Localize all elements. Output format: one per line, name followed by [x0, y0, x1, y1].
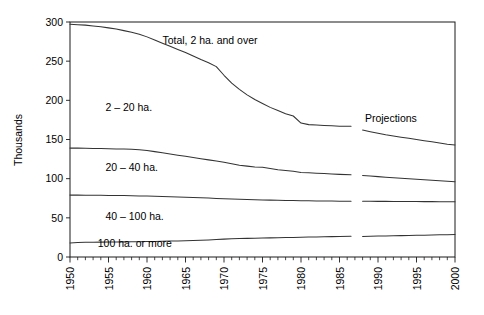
series-projection-total-2ha-and-over — [363, 130, 455, 145]
x-axis-ticks — [70, 257, 455, 263]
x-axis-tick-labels: 1950195519601965197019751980198519901995… — [64, 267, 461, 291]
x-tick-label: 1955 — [103, 267, 115, 291]
x-tick-label: 1990 — [372, 267, 384, 291]
x-tick-label: 1985 — [334, 267, 346, 291]
band-20-40-label: 20 – 40 ha. — [105, 161, 158, 173]
line-chart: 050100150200250300 195019551960196519701… — [0, 0, 484, 315]
x-tick-label: 1965 — [180, 267, 192, 291]
y-tick-label: 250 — [45, 55, 63, 67]
band-2-20-label: 2 – 20 ha. — [105, 101, 152, 113]
y-tick-label: 0 — [57, 251, 63, 263]
y-axis-title: Thousands — [12, 114, 24, 166]
x-tick-label: 1995 — [411, 267, 423, 291]
x-tick-label: 1960 — [141, 267, 153, 291]
x-tick-label: 1980 — [295, 267, 307, 291]
total-label: Total, 2 ha. and over — [162, 34, 258, 46]
projections-label: Projections — [365, 112, 417, 124]
y-tick-label: 50 — [51, 212, 63, 224]
x-tick-label: 1970 — [218, 267, 230, 291]
series-line-boundary-40ha-and-over — [70, 195, 351, 201]
x-tick-label: 2000 — [449, 267, 461, 291]
series-projection-boundary-100ha-or-more — [363, 235, 455, 237]
y-tick-label: 200 — [45, 94, 63, 106]
chart-container: 050100150200250300 195019551960196519701… — [0, 0, 484, 315]
series-projection-boundary-20ha-and-over — [363, 176, 455, 182]
y-tick-label: 300 — [45, 16, 63, 28]
series-projection-boundary-40ha-and-over — [363, 201, 455, 202]
band-100-label: 100 ha. or more — [98, 237, 172, 249]
x-tick-label: 1950 — [64, 267, 76, 291]
x-tick-label: 1975 — [257, 267, 269, 291]
series-annotations: Total, 2 ha. and over2 – 20 ha.20 – 40 h… — [98, 34, 417, 249]
y-axis-ticks — [66, 22, 70, 257]
band-40-100-label: 40 – 100 ha. — [105, 210, 163, 222]
y-tick-label: 100 — [45, 172, 63, 184]
y-axis-tick-labels: 050100150200250300 — [45, 16, 63, 263]
y-tick-label: 150 — [45, 133, 63, 145]
